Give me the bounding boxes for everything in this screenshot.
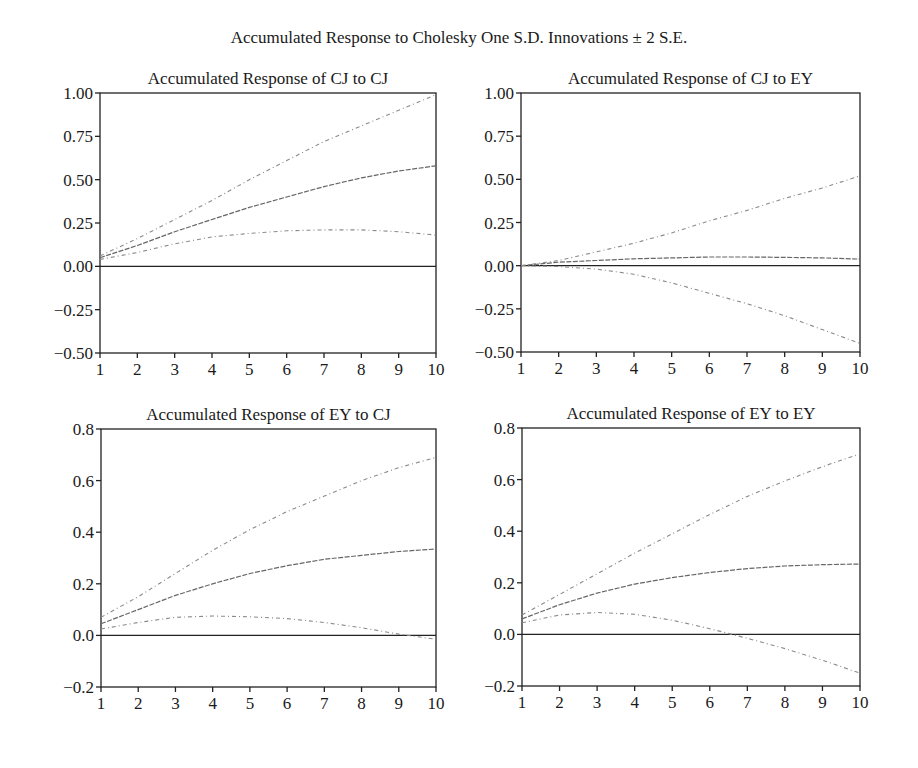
x-tick-label: 10	[428, 694, 445, 713]
x-tick-label: 4	[208, 694, 217, 713]
x-tick-label: 2	[134, 694, 143, 713]
y-tick-label: 0.8	[494, 419, 515, 438]
x-tick-label: 2	[133, 360, 142, 379]
y-tick-label: 0.75	[484, 127, 514, 146]
y-tick-label: −0.2	[484, 677, 515, 696]
x-tick-label: 6	[706, 693, 715, 712]
upper-band-line	[100, 95, 436, 256]
panel-ey-to-cj: Accumulated Response of EY to CJ0.80.60.…	[63, 405, 444, 713]
x-tick-label: 7	[320, 360, 329, 379]
x-tick-label: 9	[394, 360, 403, 379]
y-tick-label: −0.50	[54, 344, 93, 363]
y-tick-label: 0.2	[494, 574, 515, 593]
upper-band-line	[101, 457, 436, 617]
response-line	[100, 166, 436, 258]
x-tick-label: 10	[852, 693, 869, 712]
x-tick-label: 3	[593, 693, 602, 712]
panel-title: Accumulated Response of CJ to EY	[568, 69, 813, 88]
y-tick-label: 0.2	[73, 575, 94, 594]
y-tick-label: 0.50	[63, 171, 93, 190]
lower-band-line	[521, 266, 860, 344]
x-tick-label: 8	[357, 360, 366, 379]
x-tick-label: 4	[630, 359, 639, 378]
x-tick-label: 3	[592, 359, 601, 378]
response-line	[101, 549, 436, 624]
upper-band-line	[522, 454, 860, 615]
figure-canvas: Accumulated Response of CJ to CJ1.000.75…	[0, 0, 918, 768]
x-tick-label: 7	[743, 359, 752, 378]
x-tick-label: 5	[246, 694, 255, 713]
y-tick-label: 1.00	[63, 84, 93, 103]
x-tick-label: 6	[705, 359, 714, 378]
y-tick-label: 0.6	[494, 471, 515, 490]
y-tick-label: −0.50	[475, 343, 514, 362]
lower-band-line	[522, 613, 860, 674]
x-tick-label: 6	[283, 694, 292, 713]
response-line	[521, 257, 860, 266]
x-tick-label: 4	[630, 693, 639, 712]
panel-title: Accumulated Response of CJ to CJ	[148, 69, 389, 88]
panel-cj-to-ey: Accumulated Response of CJ to EY1.000.75…	[475, 69, 869, 378]
panel-title: Accumulated Response of EY to EY	[566, 404, 815, 423]
x-tick-label: 10	[852, 359, 869, 378]
x-tick-label: 9	[818, 693, 827, 712]
x-tick-label: 5	[667, 359, 676, 378]
y-tick-label: −0.25	[54, 301, 93, 320]
x-tick-label: 1	[96, 360, 105, 379]
y-tick-label: 0.75	[63, 127, 93, 146]
x-tick-label: 1	[97, 694, 106, 713]
x-tick-label: 8	[357, 694, 366, 713]
x-tick-label: 2	[555, 693, 564, 712]
y-tick-label: 0.00	[484, 257, 514, 276]
x-tick-label: 6	[282, 360, 291, 379]
y-tick-label: 0.4	[494, 522, 516, 541]
x-tick-label: 9	[395, 694, 404, 713]
x-tick-label: 3	[170, 360, 179, 379]
y-tick-label: 0.0	[73, 626, 94, 645]
x-tick-label: 1	[517, 359, 526, 378]
panel-ey-to-ey: Accumulated Response of EY to EY0.80.60.…	[484, 404, 868, 712]
x-tick-label: 4	[208, 360, 217, 379]
x-tick-label: 5	[245, 360, 254, 379]
plot-frame	[521, 93, 860, 352]
x-tick-label: 2	[554, 359, 563, 378]
x-tick-label: 1	[518, 693, 527, 712]
panel-title: Accumulated Response of EY to CJ	[146, 405, 391, 424]
plot-frame	[522, 428, 860, 686]
x-tick-label: 8	[780, 359, 789, 378]
y-tick-label: 0.00	[63, 257, 93, 276]
x-tick-label: 8	[781, 693, 790, 712]
panel-cj-to-cj: Accumulated Response of CJ to CJ1.000.75…	[54, 69, 445, 379]
y-tick-label: 0.6	[73, 472, 94, 491]
x-tick-label: 5	[668, 693, 677, 712]
y-tick-label: −0.2	[63, 678, 94, 697]
y-tick-label: 0.8	[73, 420, 94, 439]
y-tick-label: 0.4	[73, 523, 95, 542]
y-tick-label: 0.25	[484, 214, 514, 233]
response-line	[522, 564, 860, 619]
x-tick-label: 7	[320, 694, 329, 713]
x-tick-label: 10	[428, 360, 445, 379]
y-tick-label: 0.0	[494, 625, 515, 644]
y-tick-label: 1.00	[484, 84, 514, 103]
x-tick-label: 3	[171, 694, 180, 713]
upper-band-line	[521, 176, 860, 266]
y-tick-label: −0.25	[475, 300, 514, 319]
x-tick-label: 7	[743, 693, 752, 712]
y-tick-label: 0.25	[63, 214, 93, 233]
plot-frame	[100, 93, 436, 353]
lower-band-line	[100, 230, 436, 260]
x-tick-label: 9	[818, 359, 827, 378]
y-tick-label: 0.50	[484, 170, 514, 189]
plot-frame	[101, 429, 436, 687]
